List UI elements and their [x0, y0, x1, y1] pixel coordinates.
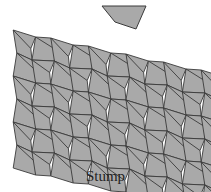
- stump-tiling-diagram: [0, 0, 211, 192]
- pentagon-tile: [182, 184, 204, 192]
- diagram-caption: Stump: [0, 168, 211, 185]
- single-stump-tile: [102, 6, 146, 29]
